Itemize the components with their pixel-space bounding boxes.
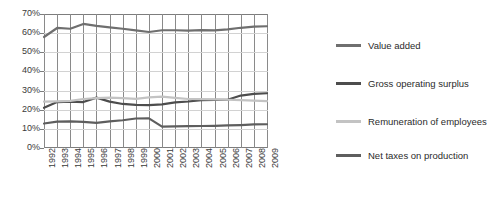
- legend-label: Value added: [368, 40, 421, 52]
- y-axis-tick-label: 70%: [0, 9, 40, 18]
- plot-area: [44, 14, 268, 148]
- y-axis-tick-label: 10%: [0, 124, 40, 133]
- x-axis-tick-label: 2001: [166, 148, 175, 196]
- series-layer: [44, 14, 268, 148]
- y-axis-tick-label: 0%: [0, 143, 40, 152]
- legend-item: Gross operating surplus: [336, 78, 488, 90]
- legend-label: Remuneration of employees: [368, 116, 487, 128]
- x-axis-tick-label: 2005: [219, 148, 228, 196]
- legend-swatch-icon: [336, 44, 361, 47]
- x-axis-tick-label: 1992: [48, 148, 57, 196]
- x-axis-tick-label: 2006: [232, 148, 241, 196]
- y-axis-tick-label: 30%: [0, 86, 40, 95]
- legend-swatch-icon: [336, 82, 361, 85]
- series-line: [44, 118, 267, 126]
- x-axis-tick-label: 2000: [153, 148, 162, 196]
- y-axis-tick: [40, 148, 44, 149]
- legend-item: Remuneration of employees: [336, 116, 488, 128]
- x-axis-tick-label: 2004: [205, 148, 214, 196]
- x-axis-tick-label: 1997: [114, 148, 123, 196]
- x-axis-tick-label: 1995: [87, 148, 96, 196]
- legend-swatch-icon: [336, 154, 361, 157]
- x-axis: 1992199319941995199619971998199920002001…: [44, 150, 274, 199]
- chart-legend: Value addedGross operating surplusRemune…: [336, 30, 488, 170]
- line-chart: 0%10%20%30%40%50%60%70% 1992199319941995…: [0, 0, 488, 199]
- x-axis-tick-label: 1996: [100, 148, 109, 196]
- y-axis-tick-label: 40%: [0, 66, 40, 75]
- series-line: [44, 24, 267, 37]
- legend-swatch-icon: [336, 120, 361, 123]
- x-axis-tick-label: 2003: [192, 148, 201, 196]
- y-axis-tick-label: 50%: [0, 47, 40, 56]
- x-axis-tick-label: 2002: [179, 148, 188, 196]
- x-axis-tick-label: 1994: [74, 148, 83, 196]
- y-axis-tick-label: 20%: [0, 105, 40, 114]
- x-axis-tick-label: 1993: [61, 148, 70, 196]
- x-axis-tick-label: 2007: [245, 148, 254, 196]
- x-axis-tick-label: 1998: [127, 148, 136, 196]
- legend-label: Net taxes on production: [368, 150, 468, 162]
- x-axis-tick-label: 1999: [140, 148, 149, 196]
- y-axis: 0%10%20%30%40%50%60%70%: [0, 0, 40, 199]
- legend-item: Net taxes on production: [336, 150, 488, 162]
- legend-label: Gross operating surplus: [368, 78, 469, 90]
- x-axis-tick-label: 2009: [271, 148, 280, 196]
- y-axis-tick-label: 60%: [0, 28, 40, 37]
- x-axis-tick-label: 2008: [258, 148, 267, 196]
- legend-item: Value added: [336, 40, 488, 52]
